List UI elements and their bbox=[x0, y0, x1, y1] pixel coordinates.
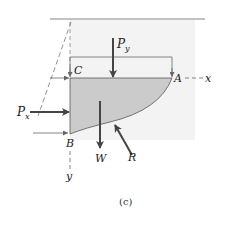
label-y: y bbox=[65, 170, 73, 183]
label-px: Px bbox=[16, 105, 30, 121]
free-body-diagram: Py C A x Px B W R y (c) bbox=[0, 0, 230, 226]
label-r: R bbox=[127, 151, 136, 164]
label-w: W bbox=[95, 152, 108, 165]
label-a: A bbox=[173, 72, 182, 85]
label-b: B bbox=[65, 137, 74, 150]
label-c: C bbox=[74, 64, 83, 77]
slanted-dashed-line bbox=[38, 22, 71, 116]
label-x: x bbox=[205, 72, 212, 85]
figure-caption: (c) bbox=[119, 196, 133, 207]
